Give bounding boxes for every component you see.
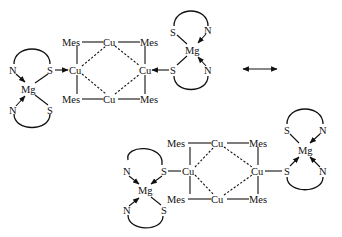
structure-a: Mes Cu Mes Cu Cu Mes Cu Mes N S Mg N S (9, 11, 212, 128)
mes-label: Mes (140, 37, 158, 48)
s-label: S (284, 166, 290, 177)
s-label: S (161, 166, 167, 177)
mes-label: Mes (249, 138, 267, 149)
n-label: N (123, 166, 131, 177)
mes-label: Mes (62, 94, 80, 105)
cu-label: Cu (182, 166, 195, 177)
resonance-diagram: Mes Cu Mes Cu Cu Mes Cu Mes N S Mg N S (0, 0, 342, 237)
cu-label: Cu (103, 37, 116, 48)
mes-label: Mes (140, 94, 158, 105)
mg-complex-right-b: S N Mg S N (265, 109, 327, 190)
structure-b: Mes Cu Mes Cu Cu Mes Cu Mes N S Mg N S (123, 109, 327, 228)
cu-label: Cu (211, 194, 224, 205)
s-label: S (47, 65, 53, 76)
n-label: N (204, 65, 212, 76)
s-label: S (170, 65, 176, 76)
cu4-core-b: Mes Cu Mes Cu Cu Mes Cu Mes (167, 138, 267, 205)
mes-label: Mes (167, 138, 185, 149)
cu-label: Cu (69, 65, 82, 76)
cu-label: Cu (139, 65, 152, 76)
n-label: N (9, 105, 17, 116)
n-label: N (319, 125, 327, 136)
n-label: N (319, 166, 327, 177)
mg-label: Mg (298, 145, 313, 156)
n-label: N (9, 65, 17, 76)
mg-complex-left-b: N S Mg N S (123, 149, 181, 228)
mes-label: Mes (167, 194, 185, 205)
n-label: N (204, 25, 212, 36)
mes-label: Mes (249, 194, 267, 205)
s-label: S (47, 105, 53, 116)
mg-label: Mg (185, 45, 200, 56)
mg-label: Mg (21, 84, 36, 95)
cu-label: Cu (251, 166, 264, 177)
mg-complex-right-a: S N Mg S N (152, 11, 212, 90)
mg-complex-left-a: N S Mg N S (9, 49, 68, 128)
s-label: S (161, 205, 167, 216)
cu-label: Cu (211, 138, 224, 149)
cu4-core-a: Mes Cu Mes Cu Cu Mes Cu Mes (62, 37, 158, 105)
mes-label: Mes (62, 37, 80, 48)
n-label: N (123, 205, 131, 216)
s-label: S (284, 125, 290, 136)
cu-label: Cu (103, 94, 116, 105)
s-label: S (170, 27, 176, 38)
mg-label: Mg (138, 185, 153, 196)
